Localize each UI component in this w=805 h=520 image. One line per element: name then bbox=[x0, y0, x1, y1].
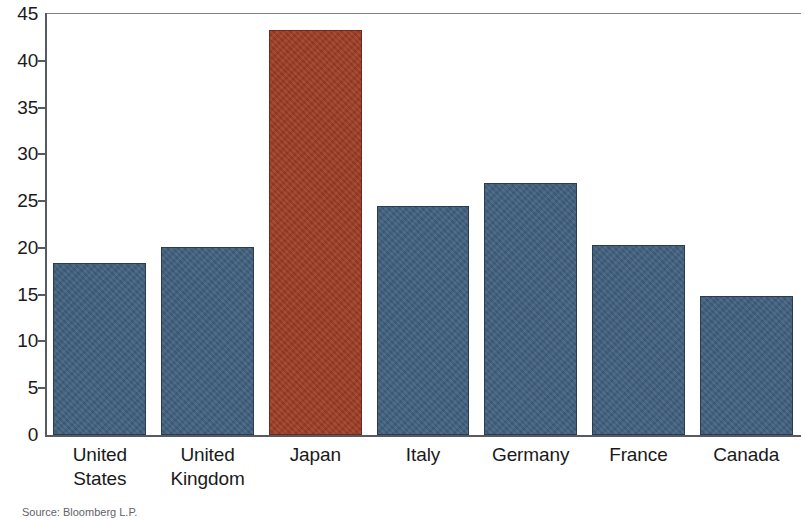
y-axis-tick-label: 30 bbox=[0, 144, 38, 163]
y-axis-tick-mark bbox=[38, 200, 46, 202]
y-axis-tick-label: 5 bbox=[0, 378, 38, 397]
y-axis-tick-label: 0 bbox=[0, 425, 38, 444]
bar-italy[interactable] bbox=[377, 206, 470, 435]
y-axis-tick-labels: 051015202530354045 bbox=[0, 0, 38, 520]
y-axis-tick-label: 25 bbox=[0, 191, 38, 210]
source-note: Source: Bloomberg L.P. bbox=[22, 506, 137, 519]
x-axis-tick-label: Germany bbox=[477, 443, 585, 467]
x-axis-tick-labels: UnitedStatesUnitedKingdomJapanItalyGerma… bbox=[46, 443, 800, 499]
y-axis-tick-label: 10 bbox=[0, 331, 38, 350]
x-axis-tick-label: Japan bbox=[261, 443, 369, 467]
y-axis-tick-mark bbox=[38, 340, 46, 342]
y-axis-tick-label: 40 bbox=[0, 51, 38, 70]
y-axis-tick-label: 15 bbox=[0, 285, 38, 304]
plot-area bbox=[46, 14, 800, 435]
y-axis-tick-label: 20 bbox=[0, 238, 38, 257]
y-axis-tick-label: 45 bbox=[0, 4, 38, 23]
y-axis-tick-mark bbox=[38, 60, 46, 62]
bar-united-states[interactable] bbox=[53, 263, 146, 435]
x-axis-tick-label: UnitedStates bbox=[46, 443, 154, 491]
bars-layer bbox=[46, 14, 800, 435]
bar-japan[interactable] bbox=[269, 30, 362, 435]
bar-chart-figure: 051015202530354045 UnitedStatesUnitedKin… bbox=[0, 0, 805, 520]
y-axis-tick-mark bbox=[38, 153, 46, 155]
y-axis-tick-label: 35 bbox=[0, 98, 38, 117]
y-axis-tick-mark bbox=[38, 387, 46, 389]
bar-france[interactable] bbox=[592, 245, 685, 435]
bar-canada[interactable] bbox=[700, 296, 793, 435]
x-axis-tick-label: France bbox=[585, 443, 693, 467]
x-axis-tick-label: UnitedKingdom bbox=[154, 443, 262, 491]
y-axis-tick-mark bbox=[38, 247, 46, 249]
y-axis-tick-mark bbox=[38, 107, 46, 109]
x-axis-tick-label: Canada bbox=[692, 443, 800, 467]
bar-germany[interactable] bbox=[484, 183, 577, 435]
x-axis-line bbox=[45, 435, 801, 437]
x-axis-tick-label: Italy bbox=[369, 443, 477, 467]
bar-united-kingdom[interactable] bbox=[161, 247, 254, 435]
y-axis-tick-mark bbox=[38, 294, 46, 296]
